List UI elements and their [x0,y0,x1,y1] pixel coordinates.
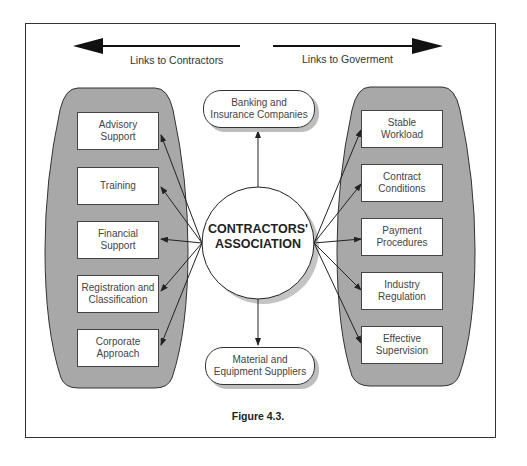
node-line: Material and [232,354,287,365]
left-box-financial-support: FinancialSupport [77,221,159,259]
box-line: Effective [383,333,421,344]
box-line: Registration and [82,282,155,293]
left-box-training: Training [77,167,159,205]
right-box-payment-procedures: PaymentProcedures [361,218,443,256]
links-to-government-label: Links to Goverment [302,53,393,65]
box-line: Approach [97,348,140,359]
right-box-stable-workload: StableWorkload [361,110,443,148]
box-line: Contract [383,171,421,182]
node-line: Banking and [231,97,287,108]
box-line: Advisory [99,119,137,130]
box-line: Stable [388,117,416,128]
banking-insurance-node: Banking andInsurance Companies [203,90,315,128]
box-line: Supervision [376,345,428,356]
box-line: Payment [382,225,421,236]
box-line: Training [100,180,136,191]
box-line: Classification [89,294,148,305]
node-line: Equipment Suppliers [214,366,306,377]
box-line: Conditions [378,183,425,194]
figure-caption: Figure 4.3. [210,410,306,422]
links-to-contractors-label: Links to Contractors [130,54,223,66]
right-box-contract-conditions: ContractConditions [361,164,443,202]
center-line: ASSOCIATION [215,237,301,251]
center-line: CONTRACTORS' [208,222,308,236]
left-box-registration-classification: Registration andClassification [77,275,159,313]
figure-canvas: Links to Contractors Links to Goverment … [0,0,527,466]
box-line: Industry [384,279,420,290]
box-line: Corporate [96,336,140,347]
right-box-effective-supervision: EffectiveSupervision [361,326,443,364]
material-equipment-node: Material andEquipment Suppliers [205,347,315,385]
node-line: Insurance Companies [210,109,307,120]
arrow-left-icon [73,38,240,54]
box-line: Financial [98,228,138,239]
right-box-industry-regulation: IndustryRegulation [361,272,443,310]
arrow-right-icon [273,38,443,54]
box-line: Procedures [376,237,427,248]
box-line: Support [100,240,135,251]
box-line: Workload [381,129,423,140]
box-line: Regulation [378,291,426,302]
left-box-corporate-approach: CorporateApproach [77,329,159,367]
contractors-association-title: CONTRACTORS' ASSOCIATION [202,222,314,252]
box-line: Support [100,131,135,142]
left-box-advisory-support: AdvisorySupport [77,112,159,150]
